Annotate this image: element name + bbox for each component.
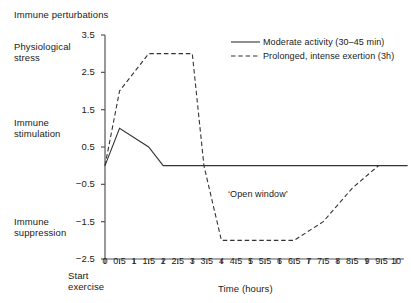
y-region-label-physiological-stress: Physiological stress [14, 41, 71, 63]
start-exercise-label: Start exercise [68, 270, 104, 292]
y-region-label-physiological-stress-line1: Physiological [14, 41, 71, 52]
series-layer [105, 54, 408, 241]
y-region-label-immune-stimulation: Immune stimulation [14, 117, 61, 139]
y-tick-label: 2.5 [67, 66, 95, 77]
y-region-label-immune-stimulation-line1: Immune [14, 117, 61, 128]
series-line-0 [105, 128, 408, 165]
y-region-label-immune-suppression-line1: Immune [14, 216, 66, 227]
y-region-label-immune-suppression-line2: suppression [14, 227, 66, 238]
y-region-label-physiological-stress-line2: stress [14, 52, 71, 63]
series-line-1 [105, 54, 379, 241]
y-region-label-immune-suppression: Immune suppression [14, 216, 66, 238]
y-tick-label: 3.5 [67, 29, 95, 40]
legend-label-prolonged-exertion: Prolonged, intense exertion (3h) [263, 51, 394, 61]
start-exercise-label-line2: exercise [68, 281, 104, 292]
y-region-label-immune-stimulation-line2: stimulation [14, 128, 61, 139]
y-tick-label: −0.5 [67, 178, 95, 189]
axes-layer [101, 35, 404, 264]
x-tick-label: 10 [384, 256, 408, 266]
y-tick-label: 0.5 [67, 141, 95, 152]
x-axis-title: Time (hours) [218, 283, 273, 294]
legend-swatch-layer [231, 42, 260, 56]
chart-container: Immune perturbations Physiological stres… [0, 0, 411, 303]
start-exercise-label-line1: Start [68, 270, 104, 281]
chart-title: Immune perturbations [14, 9, 108, 20]
y-tick-label: −1.5 [67, 216, 95, 227]
y-tick-label: −2.5 [67, 253, 95, 264]
legend-label-moderate-activity: Moderate activity (30–45 min) [263, 37, 384, 47]
y-tick-label: 1.5 [67, 104, 95, 115]
open-window-annotation: ‘Open window’ [228, 189, 288, 199]
